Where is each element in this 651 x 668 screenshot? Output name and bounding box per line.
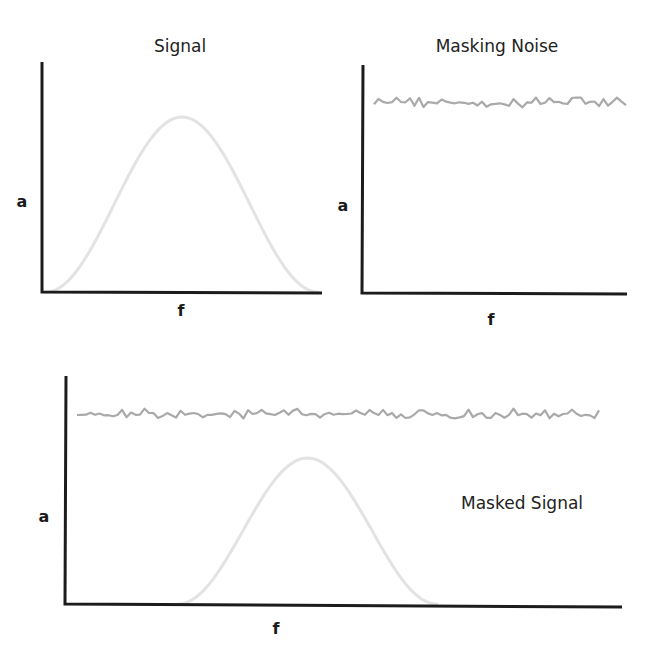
masked-axes bbox=[65, 376, 622, 607]
signal-panel bbox=[42, 62, 322, 293]
noise-title: Masking Noise bbox=[436, 36, 559, 56]
signal-curve bbox=[46, 117, 318, 292]
masked-y-label: a bbox=[39, 507, 50, 526]
noise-axes bbox=[362, 65, 627, 294]
noise-panel bbox=[362, 65, 627, 294]
masked-x-label: f bbox=[273, 619, 280, 638]
signal-y-label: a bbox=[17, 192, 28, 211]
signal-title: Signal bbox=[154, 36, 206, 56]
noise-y-label: a bbox=[338, 196, 349, 215]
masking-figure: Signal a f Masking Noise a f a f Masked … bbox=[0, 0, 651, 668]
signal-x-label: f bbox=[178, 301, 185, 320]
noise-x-label: f bbox=[488, 310, 495, 329]
masked-signal-label: Masked Signal bbox=[461, 493, 583, 513]
noise-curve bbox=[374, 98, 626, 108]
masked-panel bbox=[65, 376, 622, 607]
masked-signal-curve bbox=[178, 458, 437, 604]
masked-noise-curve bbox=[77, 409, 599, 419]
figure-canvas bbox=[0, 0, 651, 668]
